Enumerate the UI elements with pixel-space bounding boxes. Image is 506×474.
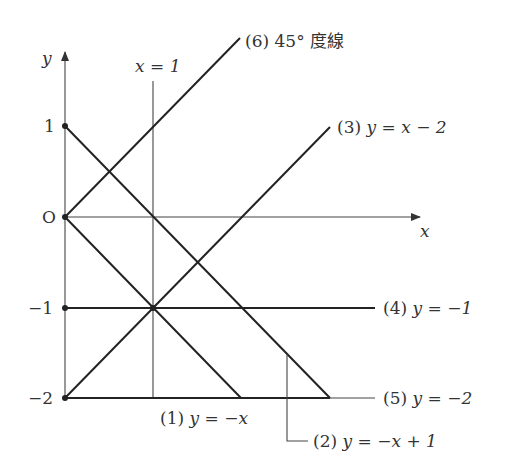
label-line-2: (2) y = −x + 1 xyxy=(313,431,437,451)
vertical-line-label: x = 1 xyxy=(135,56,180,76)
point-y-neg-1 xyxy=(62,305,68,311)
label-line-5: (5) y = −2 xyxy=(383,388,472,408)
label-line-6: (6) 45° 度線 xyxy=(245,31,344,51)
y-tick-neg-1: −1 xyxy=(28,298,53,318)
label-line-1: (1) y = −x xyxy=(160,408,248,428)
y-tick-1: 1 xyxy=(44,116,55,136)
point-origin xyxy=(62,214,68,220)
point-y-1 xyxy=(62,123,68,129)
y-tick-neg-2: −2 xyxy=(28,388,53,408)
line-diagram: y x O 1 −1 −2 x = 1 (6) 45° 度線 (3) y = x… xyxy=(0,0,506,474)
label-line-3: (3) y = x − 2 xyxy=(337,117,447,137)
y-axis-label: y xyxy=(41,48,52,68)
x-axis-label: x xyxy=(420,221,430,241)
origin-label: O xyxy=(42,207,56,227)
label-line-4: (4) y = −1 xyxy=(383,298,472,318)
point-y-neg-2 xyxy=(62,395,68,401)
point-intersection-1-neg-1 xyxy=(150,305,156,311)
